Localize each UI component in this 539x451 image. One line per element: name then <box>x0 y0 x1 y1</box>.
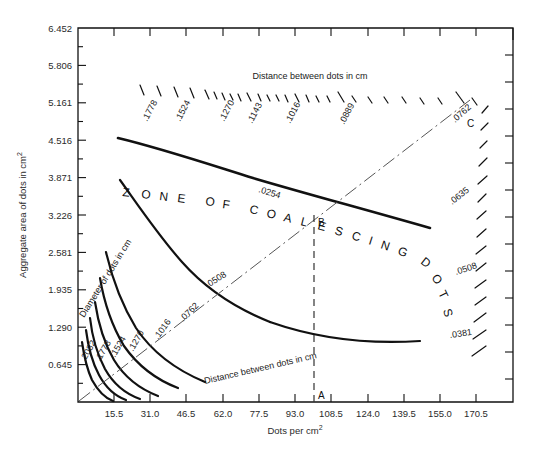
zone-letter: S <box>440 307 456 319</box>
zone-of-coalescing-dots-text: Z O N E O F C O A L E S C I N G D O T S <box>122 185 456 318</box>
x-tick-label: 155.0 <box>428 408 452 419</box>
zone-letter: F <box>222 197 231 212</box>
curve-0508 <box>120 180 270 322</box>
x-tick-label: 15.5 <box>105 408 124 419</box>
y-tick-label: 6.452 <box>48 23 72 34</box>
marker-a: A <box>318 390 325 401</box>
plot-frame <box>78 28 513 402</box>
y-axis-title: Aggregate area of dots in cm2 <box>16 152 28 278</box>
x-tick-label: 170.5 <box>464 408 488 419</box>
curve-label-0889: .0889 <box>337 101 356 126</box>
curve-label-1270: .1270 <box>217 98 236 123</box>
y-tick-label: 3.871 <box>48 172 72 183</box>
marker-b: B <box>318 217 325 228</box>
top-band-label: Distance between dots in cm <box>252 71 367 81</box>
zone-letter: N <box>379 238 392 254</box>
x-axis-tick-labels: 15.5 31.0 46.5 62.0 77.5 93.0 108.5 124.… <box>105 408 488 419</box>
curve-label-0508-left: .0508 <box>204 269 228 289</box>
chart-figure: 6.452 5.806 5.161 4.516 3.871 3.226 2.58… <box>0 0 539 451</box>
zone-letter: G <box>396 244 410 260</box>
x-tick-label: 62.0 <box>214 408 233 419</box>
y-axis-tick-labels: 6.452 5.806 5.161 4.516 3.871 3.226 2.58… <box>48 23 72 371</box>
cut-off-header-text <box>66 0 326 9</box>
zone-letter: S <box>333 223 345 239</box>
construction-markers: A B C <box>318 118 474 401</box>
y-tick-label: 5.806 <box>48 60 72 71</box>
zone-letter: N <box>159 189 169 204</box>
marker-c: C <box>467 118 474 129</box>
zone-letter: L <box>299 214 309 229</box>
zone-letter: C <box>248 202 260 217</box>
y-axis-ticks <box>78 47 86 384</box>
y-tick-label: 1.290 <box>48 322 72 333</box>
zone-letter: D <box>418 254 434 271</box>
zone-letter: O <box>265 206 277 222</box>
y-tick-label: 0.645 <box>48 359 72 370</box>
svg-text:Aggregate area of dots in cm2: Aggregate area of dots in cm2 <box>16 152 28 278</box>
construction-diagonal-line <box>79 100 470 401</box>
zone-letter: A <box>282 210 293 225</box>
curve-label-1016: .1016 <box>283 100 302 125</box>
right-hatch-band <box>472 106 488 356</box>
zone-letter: O <box>141 187 152 202</box>
zone-curve-labels: .0254 <box>257 184 281 200</box>
curve-label-0635: .0635 <box>447 185 471 207</box>
curve-label-0762-left: .0762 <box>177 301 200 324</box>
y-axis-title-sup: 2 <box>16 152 23 156</box>
curve-label-1524: .1524 <box>173 98 192 123</box>
curve-label-0508-right: .0508 <box>454 260 479 276</box>
zone-letter: O <box>205 194 216 209</box>
right-curve-labels: .0635 .0508 .0381 <box>447 185 478 340</box>
x-tick-label: 124.0 <box>356 408 380 419</box>
x-tick-label: 108.5 <box>319 408 343 419</box>
x-tick-label: 31.0 <box>141 408 160 419</box>
diameter-curves <box>82 252 205 401</box>
x-tick-label: 139.5 <box>392 408 416 419</box>
zone-letter: Z <box>122 185 131 200</box>
x-axis-title: Dots per cm2 <box>267 424 322 436</box>
curve-label-0254-zone: .0254 <box>257 184 281 200</box>
top-hatch-band <box>140 85 477 105</box>
x-tick-label: 93.0 <box>286 408 305 419</box>
zone-letter: I <box>367 234 375 248</box>
zone-letter: E <box>177 191 187 206</box>
zone-letter: C <box>350 228 363 244</box>
curve-0508-tail <box>270 322 420 342</box>
y-tick-label: 1.935 <box>48 284 72 295</box>
y-tick-label: 5.161 <box>48 97 72 108</box>
y-tick-label: 3.226 <box>48 210 72 221</box>
x-axis-title-text: Dots per cm <box>267 425 318 436</box>
zone-letter: T <box>435 288 451 301</box>
chart-svg: 6.452 5.806 5.161 4.516 3.871 3.226 2.58… <box>0 0 539 451</box>
x-tick-label: 77.5 <box>250 408 269 419</box>
x-tick-label: 46.5 <box>177 408 196 419</box>
curve-label-1270-left: .1270 <box>126 328 146 353</box>
bottom-band-label: Distance between dots in cm <box>203 350 317 386</box>
curve-label-1143: .1143 <box>245 101 264 125</box>
svg-text:Dots per cm2: Dots per cm2 <box>267 424 322 436</box>
y-tick-label: 2.581 <box>48 247 72 258</box>
zone-letter: O <box>429 271 446 287</box>
curve-label-0381: .0381 <box>449 327 473 340</box>
y-axis-title-text: Aggregate area of dots in cm <box>17 156 28 278</box>
x-axis-title-sup: 2 <box>319 424 323 431</box>
curve-label-1778: .1778 <box>140 98 159 123</box>
y-tick-label: 4.516 <box>48 135 72 146</box>
